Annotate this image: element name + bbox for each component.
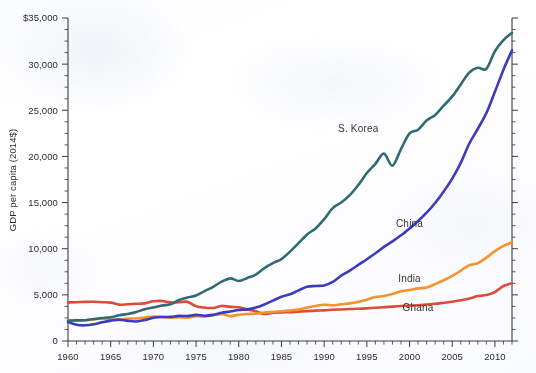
y-axis-title: GDP per capita (2014$) xyxy=(7,129,18,231)
x-tick-label: 1980 xyxy=(228,351,250,362)
gdp-per-capita-line-chart: 05,00010,00015,00020,00025,00030,000$35,… xyxy=(0,0,536,373)
series-label-ghana: Ghana xyxy=(403,302,434,313)
right-axis-group xyxy=(512,18,518,341)
x-tick-label: 2000 xyxy=(399,351,421,362)
x-tick-label: 1965 xyxy=(100,351,122,362)
series-annotation-labels: S. KoreaChinaIndiaGhana xyxy=(338,123,434,314)
x-tick-label: 1990 xyxy=(313,351,335,362)
x-tick-label: 1975 xyxy=(185,351,207,362)
chart-plot-area: 05,00010,00015,00020,00025,00030,000$35,… xyxy=(0,0,536,373)
x-axis-tick-labels: 1960196519701975198019851990199520002005… xyxy=(57,351,505,362)
series-line-china xyxy=(68,50,512,325)
y-tick-label: $35,000 xyxy=(23,12,58,23)
y-tick-label: 15,000 xyxy=(28,197,58,208)
y-tick-label: 0 xyxy=(53,335,58,346)
x-tick-label: 1985 xyxy=(271,351,293,362)
y-tick-label: 5,000 xyxy=(34,289,58,300)
x-tick-label: 1995 xyxy=(356,351,378,362)
x-tick-label: 1960 xyxy=(57,351,79,362)
x-tick-label: 1970 xyxy=(143,351,165,362)
series-line-s-korea xyxy=(68,33,512,321)
y-tick-label: 20,000 xyxy=(28,151,58,162)
x-tick-label: 2010 xyxy=(484,351,506,362)
y-tick-label: 25,000 xyxy=(28,105,58,116)
series-line-india xyxy=(68,242,512,320)
x-tick-label: 2005 xyxy=(441,351,463,362)
series-label-china: China xyxy=(396,218,423,229)
x-axis-tick-group xyxy=(68,341,512,347)
y-axis-tick-labels: 05,00010,00015,00020,00025,00030,000$35,… xyxy=(23,12,58,346)
y-tick-label: 30,000 xyxy=(28,59,58,70)
y-tick-label: 10,000 xyxy=(28,243,58,254)
series-label-india: India xyxy=(398,273,421,284)
series-lines-group xyxy=(68,33,512,326)
y-axis-tick-group xyxy=(62,18,68,341)
series-label-s-korea: S. Korea xyxy=(338,123,379,134)
